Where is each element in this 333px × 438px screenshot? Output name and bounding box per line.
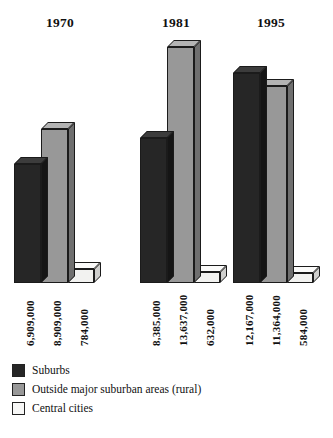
legend-item-rural: Outside major suburban areas (rural) bbox=[12, 380, 312, 399]
value-label-1970-central-cities: 784,000 bbox=[78, 309, 90, 346]
value-label-1981-rural: 13,637,000 bbox=[177, 295, 189, 347]
value-label-1981-central-cities: 632,000 bbox=[204, 309, 216, 346]
bar-1995-suburbs bbox=[233, 66, 260, 283]
group-year-label-1995: 1995 bbox=[225, 15, 317, 31]
legend-item-suburbs: Suburbs bbox=[12, 361, 312, 380]
bar-1970-suburbs bbox=[14, 157, 41, 283]
legend-label-suburbs: Suburbs bbox=[32, 364, 70, 377]
value-label-1995-suburbs: 12,167,000 bbox=[243, 295, 255, 347]
legend-item-central-cities: Central cities bbox=[12, 399, 312, 418]
legend-swatch-suburbs bbox=[12, 364, 25, 377]
legend-swatch-central-cities bbox=[12, 402, 25, 415]
chart-legend: Suburbs Outside major suburban areas (ru… bbox=[12, 361, 312, 418]
value-label-1995-central-cities: 584,000 bbox=[297, 309, 309, 346]
value-label-1995-rural: 11,364,000 bbox=[270, 295, 282, 346]
legend-swatch-rural bbox=[12, 383, 25, 396]
bar-1981-suburbs bbox=[140, 131, 167, 283]
group-year-label-1981: 1981 bbox=[130, 15, 222, 31]
group-year-label-1970: 1970 bbox=[14, 15, 106, 31]
value-label-1970-rural: 8,909,000 bbox=[51, 300, 63, 346]
value-label-1981-suburbs: 8,385,000 bbox=[150, 300, 162, 346]
bar-chart: 1970 1981 1995 6,909,000 8,909,000 784,0… bbox=[0, 0, 333, 348]
value-label-1970-suburbs: 6,909,000 bbox=[24, 300, 36, 346]
legend-label-rural: Outside major suburban areas (rural) bbox=[32, 383, 201, 396]
legend-label-central-cities: Central cities bbox=[32, 402, 93, 415]
